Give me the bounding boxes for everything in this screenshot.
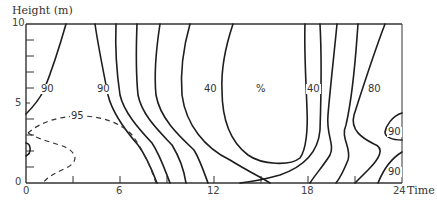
contour-isoline-r1 <box>310 24 337 183</box>
y-tick-5: 5 <box>15 97 21 108</box>
x-tick-24: 24 <box>393 185 406 196</box>
x-tick-12: 12 <box>207 185 220 196</box>
x-tick-6: 6 <box>116 185 122 196</box>
y-axis-label: Height (m) <box>12 4 73 17</box>
y-tick-10: 10 <box>12 17 25 28</box>
contour-90-left <box>26 24 66 114</box>
contour-chart: Height (m) Time 10 5 0 0 6 12 18 24 90 9… <box>0 0 437 206</box>
plot-frame <box>26 24 402 183</box>
contour-label-40: 40 <box>203 84 218 94</box>
contour-label-90: 90 <box>40 84 55 94</box>
contour-label-90: 90 <box>387 167 402 177</box>
unit-percent-label: % <box>255 84 267 94</box>
contour-label-90: 90 <box>96 84 111 94</box>
contour-isoline-r2 <box>336 24 358 183</box>
y-tick-0: 0 <box>15 176 21 187</box>
x-tick-0: 0 <box>23 185 29 196</box>
x-axis-label: Time <box>407 184 435 197</box>
contour-label-80: 80 <box>367 84 382 94</box>
contour-80 <box>353 24 385 183</box>
contour-label-40: 40 <box>306 84 321 94</box>
contour-40-right <box>240 24 321 183</box>
contour-90-middle <box>95 24 157 183</box>
contour-isoline-2 <box>116 24 170 183</box>
x-tick-18: 18 <box>301 185 314 196</box>
contour-isoline-4 <box>155 24 208 183</box>
contour-plot-svg <box>0 0 437 206</box>
contour-95-lower <box>28 133 75 183</box>
contour-label-95: 95 <box>70 111 85 121</box>
contour-label-90: 90 <box>387 127 402 137</box>
